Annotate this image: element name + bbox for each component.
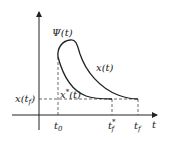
optimal-control-diagram: Ψ(t) x(t) x*(t) x(tf) t0 t*f tf t: [0, 0, 170, 141]
label-t0: t0: [54, 120, 63, 133]
label-x-star: x*(t): [60, 88, 81, 100]
label-tf-star: t*f: [108, 118, 116, 133]
label-t-axis: t: [152, 119, 157, 130]
label-x-tf: x(tf): [15, 93, 35, 106]
label-x-curve: x(t): [96, 62, 114, 73]
label-tf: tf: [134, 120, 142, 133]
label-psi: Ψ(t): [52, 27, 73, 38]
